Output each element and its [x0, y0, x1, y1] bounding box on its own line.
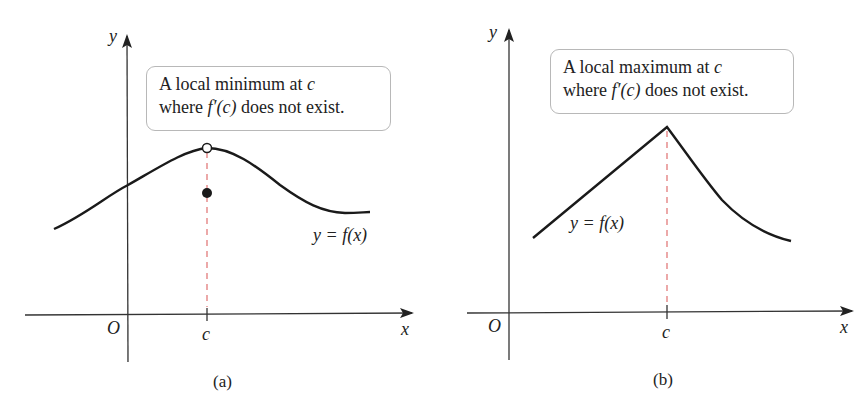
origin-label-b: O — [488, 316, 501, 337]
callout-line1-a: A local minimum at c — [159, 73, 380, 96]
callout-line2-a: where f′(c) does not exist. — [159, 96, 380, 119]
x-axis-label-a: x — [401, 319, 409, 340]
caption-a: (a) — [213, 372, 232, 392]
curve-label-b: y = f(x) — [570, 213, 624, 234]
y-axis-label-b: y — [489, 22, 497, 43]
origin-label-a: O — [107, 318, 120, 339]
curve-a — [54, 148, 370, 229]
x-axis-label-b: x — [840, 317, 848, 338]
y-axis-a — [127, 36, 128, 362]
filled-dot-marker — [202, 188, 212, 198]
open-circle-marker — [203, 144, 212, 153]
tick-label-c-a: c — [202, 324, 210, 345]
callout-line1-b: A local maximum at c — [563, 56, 783, 79]
callout-line2-b: where f′(c) does not exist. — [563, 79, 783, 102]
callout-box-b: A local maximum at c where f′(c) does no… — [550, 49, 794, 114]
x-axis-a — [25, 313, 412, 315]
tick-label-c-b: c — [662, 322, 670, 343]
curve-label-a: y = f(x) — [313, 225, 367, 246]
caption-b: (b) — [653, 370, 673, 390]
y-axis-label-a: y — [109, 26, 117, 47]
callout-box-a: A local minimum at c where f′(c) does no… — [146, 66, 391, 131]
x-axis-b — [467, 311, 852, 313]
